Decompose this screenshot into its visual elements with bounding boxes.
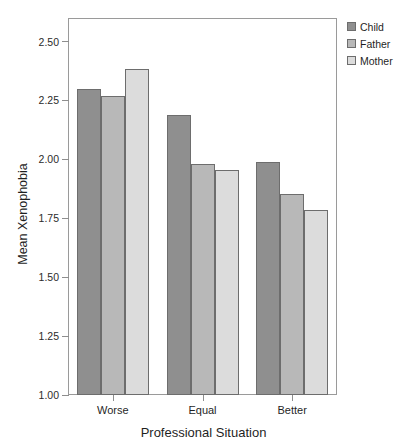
x-axis-tick	[113, 395, 114, 401]
y-axis: 1.001.251.501.752.002.252.50	[0, 0, 69, 448]
bar-mother-equal[interactable]	[215, 170, 239, 395]
x-axis-title: Professional Situation	[0, 425, 407, 440]
legend-item-father[interactable]: Father	[347, 36, 407, 51]
legend-item-mother[interactable]: Mother	[347, 53, 407, 68]
x-axis-tick-label: Equal	[188, 404, 216, 416]
y-axis-tick	[62, 41, 69, 42]
legend-item-label: Child	[360, 21, 384, 33]
legend-swatch-icon	[347, 39, 356, 48]
bar-father-equal[interactable]	[191, 164, 215, 395]
bar-father-worse[interactable]	[101, 96, 125, 395]
y-axis-tick	[62, 395, 69, 396]
y-axis-tick-label: 1.00	[39, 390, 59, 400]
bar-child-worse[interactable]	[77, 89, 101, 395]
y-axis-tick-label: 1.75	[39, 213, 59, 223]
legend: ChildFatherMother	[347, 19, 407, 70]
y-axis-tick-label: 2.25	[39, 95, 59, 105]
bar-child-equal[interactable]	[167, 115, 191, 395]
bar-mother-worse[interactable]	[125, 69, 149, 395]
legend-swatch-icon	[347, 22, 356, 31]
x-axis-tick	[292, 395, 293, 401]
x-axis-tick-label: Better	[277, 404, 306, 416]
y-axis-tick-label: 2.00	[39, 154, 59, 164]
x-axis-tick-label: Worse	[97, 404, 129, 416]
y-axis-tick	[62, 100, 69, 101]
y-axis-tick	[62, 159, 69, 160]
y-axis-tick	[62, 218, 69, 219]
y-axis-tick	[62, 336, 69, 337]
bar-child-better[interactable]	[256, 162, 280, 395]
legend-swatch-icon	[347, 56, 356, 65]
y-axis-tick-label: 1.25	[39, 331, 59, 341]
legend-item-child[interactable]: Child	[347, 19, 407, 34]
bar-chart: 1.001.251.501.752.002.252.50 Mean Xenoph…	[0, 0, 407, 448]
bar-father-better[interactable]	[280, 194, 304, 395]
y-axis-title: Mean Xenophobia	[16, 134, 30, 294]
y-axis-tick-label: 1.50	[39, 272, 59, 282]
x-axis-tick	[203, 395, 204, 401]
legend-item-label: Mother	[360, 55, 393, 67]
legend-item-label: Father	[360, 38, 390, 50]
y-axis-tick-label: 2.50	[39, 37, 59, 47]
y-axis-tick	[62, 277, 69, 278]
bar-mother-better[interactable]	[304, 210, 328, 395]
